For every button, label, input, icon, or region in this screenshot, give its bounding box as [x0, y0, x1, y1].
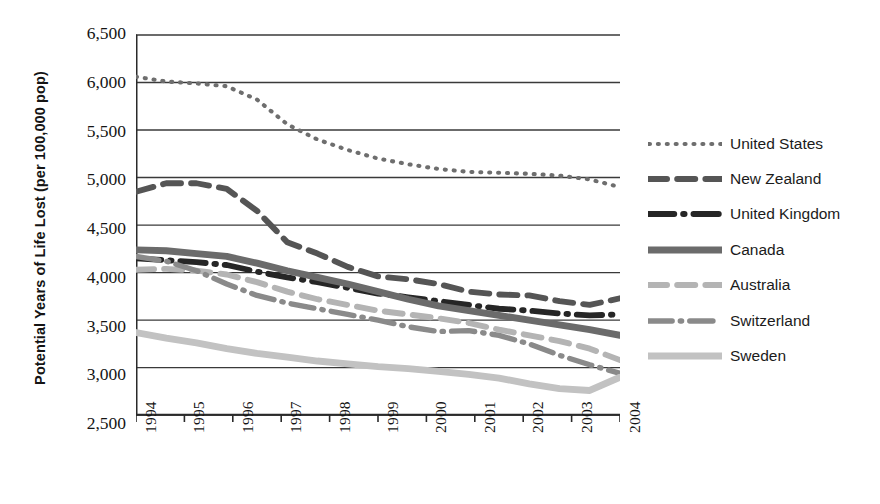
x-tick-label: 2000: [432, 401, 450, 433]
y-tick-label: 5,500: [40, 120, 126, 141]
y-tick-label: 4,000: [40, 266, 126, 287]
legend-label: United Kingdom: [730, 205, 840, 223]
legend-item-australia[interactable]: Australia: [648, 268, 876, 303]
y-tick-label: 6,500: [40, 23, 126, 44]
legend-swatch-icon: [648, 349, 722, 363]
series-line-united-kingdom: [136, 258, 620, 315]
series-line-united-states: [136, 77, 620, 187]
legend-item-united-states[interactable]: United States: [648, 126, 876, 161]
legend-label: Switzerland: [730, 312, 810, 330]
legend-swatch-icon: [648, 278, 722, 292]
x-tick-label: 1999: [384, 401, 402, 433]
legend-label: Canada: [730, 241, 784, 259]
legend-label: Sweden: [730, 347, 786, 365]
y-tick-label: 3,500: [40, 315, 126, 336]
y-tick-label: 3,000: [40, 364, 126, 385]
legend-item-canada[interactable]: Canada: [648, 232, 876, 267]
chart-legend: United StatesNew ZealandUnited KingdomCa…: [648, 126, 876, 374]
y-tick-label: 5,000: [40, 169, 126, 190]
y-tick-label: 2,500: [40, 413, 126, 434]
x-tick-label: 2001: [481, 401, 499, 433]
legend-swatch-icon: [648, 172, 722, 186]
x-tick-label: 1997: [287, 401, 305, 433]
x-tick-label: 2002: [529, 401, 547, 433]
series-line-sweden: [136, 333, 620, 391]
plot-area: [136, 33, 620, 423]
y-tick-label: 6,000: [40, 71, 126, 92]
plot-svg: [136, 33, 620, 423]
x-tick-label: 2004: [626, 401, 644, 433]
legend-item-new-zealand[interactable]: New Zealand: [648, 161, 876, 196]
legend-swatch-icon: [648, 243, 722, 257]
legend-label: Australia: [730, 276, 790, 294]
legend-label: United States: [730, 135, 823, 153]
legend-swatch-icon: [648, 137, 722, 151]
x-tick-label: 1998: [336, 401, 354, 433]
y-tick-label: 4,500: [40, 218, 126, 239]
legend-item-united-kingdom[interactable]: United Kingdom: [648, 197, 876, 232]
series-line-new-zealand: [136, 183, 620, 305]
legend-swatch-icon: [648, 207, 722, 221]
legend-swatch-icon: [648, 314, 722, 328]
legend-label: New Zealand: [730, 170, 821, 188]
x-tick-label: 2003: [578, 401, 596, 433]
chart-figure: Potential Years of Life Lost (per 100,00…: [0, 0, 880, 504]
x-tick-label: 1995: [190, 401, 208, 433]
x-tick-label: 1996: [239, 401, 257, 433]
legend-item-switzerland[interactable]: Switzerland: [648, 303, 876, 338]
legend-item-sweden[interactable]: Sweden: [648, 338, 876, 373]
x-tick-label: 1994: [142, 401, 160, 433]
